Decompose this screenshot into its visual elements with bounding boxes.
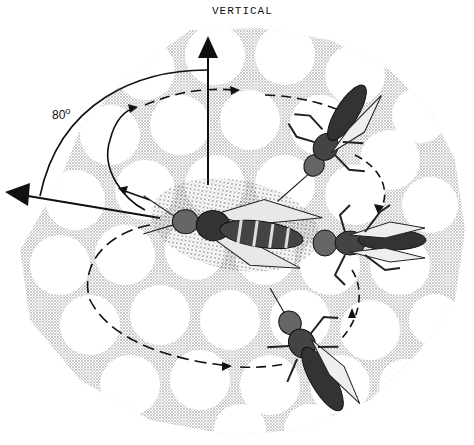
diagram-canvas <box>0 0 474 445</box>
vertical-label: VERTICAL <box>212 5 273 17</box>
waggle-dance-figure: VERTICAL 80o <box>0 0 474 445</box>
angle-label: 80o <box>52 106 70 122</box>
degree-symbol: o <box>65 106 70 116</box>
angle-value: 80 <box>52 108 65 122</box>
